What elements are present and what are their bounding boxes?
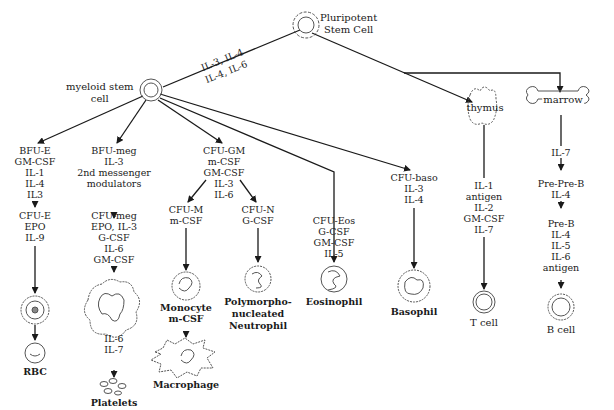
factor: IL3 [15, 189, 56, 200]
factor: CFU-Eos [313, 215, 355, 226]
myeloid-label-line2: cell [66, 93, 134, 105]
b-cell-label: B cell [547, 324, 575, 336]
rbc-label: RBC [23, 366, 47, 378]
pluripotent-stem-cell-icon [293, 12, 319, 38]
factor: G-CSF [91, 232, 137, 243]
factor: GM-CSF [313, 237, 355, 248]
factor: GM-CSF [203, 167, 245, 178]
macrophage-icon [151, 338, 215, 378]
erythroid-stage1: BFU-E GM-CSF IL-1 IL-4 IL3 [15, 145, 56, 200]
cfu-baso: CFU-baso IL-3 IL-4 [390, 172, 437, 205]
t-cell-factors: IL-1 antigen IL-2 GM-CSF IL-7 [464, 180, 505, 235]
factor: CFU-N [241, 204, 274, 215]
factor: IL-6 [543, 251, 579, 262]
factor: EPO [19, 221, 51, 232]
factor: IL-4 [538, 189, 585, 200]
factor: IL-6 [91, 243, 137, 254]
erythroblast-icon [21, 296, 49, 324]
eosinophil-label: Eosinophil [306, 296, 363, 308]
factor: IL-6 [203, 189, 245, 200]
factor: Pre-B [543, 218, 579, 229]
factor: EPO, IL-3 [91, 221, 137, 232]
factor: CFU-E [19, 210, 51, 221]
factor: antigen [543, 262, 579, 273]
factor: Polymorpho- [224, 296, 292, 308]
megakaryocyte-stage1: BFU-meg IL-3 2nd messenger modulators [77, 145, 151, 189]
rbc-icon [25, 343, 45, 363]
cfu-gm-stage1: CFU-GM m-CSF GM-CSF IL-3 IL-6 [203, 145, 245, 200]
thymus-label: thymus [466, 102, 503, 114]
factor: IL-6 [104, 333, 123, 344]
factor: IL-4 [15, 178, 56, 189]
megakaryocyte-stage3: IL-6 IL-7 [104, 333, 123, 355]
factor: CFU-meg [91, 210, 137, 221]
factor: IL-1 [15, 167, 56, 178]
cfu-eos: CFU-Eos G-CSF GM-CSF IL-5 [313, 215, 355, 259]
basophil-label: Basophil [391, 306, 438, 318]
myeloid-stem-cell-label: myeloid stem cell [66, 81, 134, 105]
hematopoiesis-diagram: Pluripotent Stem Cell IL-3, IL-4 IL-4, I… [0, 0, 614, 410]
factor: Neutrophil [224, 320, 292, 332]
cfu-n: CFU-N G-CSF [241, 204, 274, 226]
factor: G-CSF [313, 226, 355, 237]
macrophage-label: Macrophage [153, 379, 219, 391]
factor: IL-3 [203, 178, 245, 189]
factor: IL-3 [390, 183, 437, 194]
neutrophil-label: Polymorpho- nucleated Neutrophil [224, 296, 292, 332]
factor: CFU-baso [390, 172, 437, 183]
t-cell-label: T cell [470, 317, 498, 329]
root-label-line2: Stem Cell [320, 24, 377, 36]
platelets-icon [100, 379, 126, 396]
factor: CFU-M [169, 204, 204, 215]
erythroid-stage2: CFU-E EPO IL-9 [19, 210, 51, 243]
factor: IL-1 [464, 180, 505, 191]
factor: GM-CSF [15, 156, 56, 167]
platelets-label: Platelets [91, 397, 138, 409]
megakaryocyte-icon [84, 279, 139, 337]
factor: IL-7 [104, 344, 123, 355]
factor: GM-CSF [91, 254, 137, 265]
factor: IL-9 [19, 232, 51, 243]
monocyte-label: Monocyte m-CSF [160, 302, 212, 324]
factor: G-CSF [241, 215, 274, 226]
myeloid-stem-cell-icon [140, 79, 162, 101]
cfu-m: CFU-M m-CSF [169, 204, 204, 226]
factor: 2nd messenger [77, 167, 151, 178]
marrow-label: marrow [542, 94, 584, 106]
factor: m-CSF [203, 156, 245, 167]
root-label-line1: Pluripotent [320, 12, 377, 24]
factor: CFU-GM [203, 145, 245, 156]
factor: IL-2 [464, 202, 505, 213]
factor: IL-4 [390, 194, 437, 205]
factor: IL-3 [77, 156, 151, 167]
t-cell-icon [473, 291, 495, 313]
factor: m-CSF [169, 215, 204, 226]
factor: nucleated [224, 308, 292, 320]
b-cell-icon [548, 294, 574, 320]
factor: GM-CSF [464, 213, 505, 224]
factor: modulators [77, 178, 151, 189]
megakaryocyte-stage2: CFU-meg EPO, IL-3 G-CSF IL-6 GM-CSF [91, 210, 137, 265]
factor: BFU-meg [77, 145, 151, 156]
connector-lines [0, 0, 614, 410]
b-cell-factor-il7: IL-7 [551, 147, 570, 158]
pluripotent-stem-cell-label: Pluripotent Stem Cell [320, 12, 377, 36]
basophil-icon [398, 270, 430, 302]
factor: IL-5 [543, 240, 579, 251]
pre-pre-b: Pre-Pre-B IL-4 [538, 178, 585, 200]
factor: IL-7 [464, 224, 505, 235]
factor: BFU-E [15, 145, 56, 156]
eosinophil-icon [321, 266, 347, 292]
factor: Pre-Pre-B [538, 178, 585, 189]
factor: antigen [464, 191, 505, 202]
factor: IL-5 [313, 248, 355, 259]
factor: m-CSF [160, 313, 212, 324]
neutrophil-icon [245, 266, 271, 292]
pre-b: Pre-B IL-4 IL-5 IL-6 antigen [543, 218, 579, 273]
myeloid-label-line1: myeloid stem [66, 81, 134, 93]
monocyte-icon [172, 272, 200, 300]
factor: IL-4 [543, 229, 579, 240]
factor: Monocyte [160, 302, 212, 313]
